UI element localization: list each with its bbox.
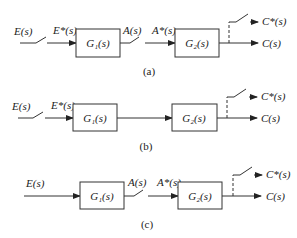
output-sampler-switch [233,167,262,196]
caption-c: (c) [141,218,154,231]
output-sampler-switch [227,89,257,118]
block-g1-label: G₁(s) [90,190,114,203]
input-sampler-switch [18,112,43,118]
sampled-input-label: E*(s) [50,99,75,112]
input-label: E(s) [25,177,45,190]
mid-label: A(s) [127,176,147,189]
diagram-c: E(s) G₁(s) A(s) A*(s) G₂(s) C*(s) C(s) (… [24,167,291,231]
mid-sampler-switch [120,37,139,43]
diagram-a: E(s) E*(s) G₁(s) A(s) A*(s) G₂(s) C*(s) … [13,14,287,78]
input-label: E(s) [13,25,33,38]
sampled-output-label: C*(s) [262,15,287,28]
sampled-system-diagrams: E(s) E*(s) G₁(s) A(s) A*(s) G₂(s) C*(s) … [0,0,297,238]
sampled-mid-label: A*(s) [151,24,176,37]
sampled-output-label: C*(s) [266,168,291,181]
block-g2-label: G₂(s) [188,190,212,203]
output-label: C(s) [261,112,280,125]
caption-a: (a) [143,65,156,78]
block-g2-label: G₂(s) [182,112,206,125]
block-g1-label: G₁(s) [83,112,107,125]
block-g2-label: G₂(s) [185,37,209,50]
input-label: E(s) [11,100,31,113]
sampled-input-label: E*(s) [52,24,77,37]
caption-b: (b) [140,140,153,153]
output-label: C(s) [266,190,285,203]
input-sampler-switch [20,37,46,43]
sampled-mid-label: A*(s) [156,176,181,189]
sampled-output-label: C*(s) [261,90,286,103]
output-label: C(s) [262,37,281,50]
mid-sampler-switch [124,190,143,196]
mid-label: A(s) [122,24,142,37]
block-g1-label: G₁(s) [86,37,110,50]
diagram-b: E(s) E*(s) G₁(s) G₂(s) C*(s) C(s) (b) [11,89,286,153]
output-sampler-switch [229,14,258,43]
